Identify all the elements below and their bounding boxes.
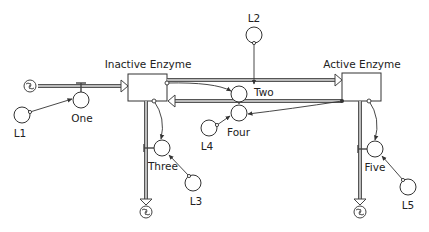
stock-inactive-enzyme-label: Inactive Enzyme bbox=[105, 58, 192, 70]
flow-arrowhead-icon bbox=[354, 199, 366, 205]
converter-l5-label: L5 bbox=[402, 199, 415, 211]
flow-one-pipe[interactable] bbox=[38, 80, 128, 92]
converter-l3-label: L3 bbox=[190, 195, 203, 207]
converter-l4[interactable] bbox=[201, 120, 217, 136]
link-inactive-to-two bbox=[167, 83, 231, 91]
flow-rate-one[interactable] bbox=[73, 92, 89, 108]
converter-l1-label: L1 bbox=[14, 127, 27, 139]
flow-rate-three[interactable] bbox=[154, 140, 170, 156]
sink-cloud-three-icon bbox=[140, 206, 152, 218]
link-l4-to-four bbox=[217, 116, 230, 125]
link-inactive-to-three bbox=[154, 101, 162, 139]
link-active-to-five bbox=[369, 101, 377, 140]
stock-flow-diagram: Inactive Enzyme Active Enzyme Two Four L… bbox=[0, 0, 429, 232]
stock-inactive-enzyme[interactable] bbox=[128, 74, 167, 101]
converter-l2-label: L2 bbox=[248, 12, 261, 24]
link-l1-to-one bbox=[30, 99, 72, 112]
stock-active-enzyme-label: Active Enzyme bbox=[323, 58, 401, 70]
flow-arrowhead-icon bbox=[335, 74, 342, 86]
flow-rate-one-label: One bbox=[71, 112, 92, 124]
sink-cloud-five-icon bbox=[354, 206, 366, 218]
flow-rate-three-label: Three bbox=[147, 160, 178, 172]
flow-arrowhead-icon bbox=[140, 199, 152, 205]
converter-l3[interactable] bbox=[185, 175, 201, 191]
flow-five-pipe[interactable] bbox=[354, 101, 366, 205]
flow-two-pipe[interactable] bbox=[167, 74, 342, 86]
flow-rate-five-label: Five bbox=[365, 161, 386, 173]
flow-rate-two[interactable] bbox=[231, 86, 247, 102]
flow-rate-four[interactable] bbox=[231, 105, 247, 121]
flow-arrowhead-icon bbox=[121, 80, 128, 92]
flow-rate-two-label: Two bbox=[253, 86, 274, 98]
flow-rate-four-label: Four bbox=[227, 126, 251, 138]
flow-arrowhead-icon bbox=[168, 95, 175, 107]
converter-l2[interactable] bbox=[246, 27, 262, 43]
converter-l1[interactable] bbox=[14, 107, 30, 123]
stock-active-enzyme[interactable] bbox=[342, 73, 381, 101]
flow-three-pipe[interactable] bbox=[140, 101, 152, 205]
flow-rate-five[interactable] bbox=[367, 141, 383, 157]
converter-l4-label: L4 bbox=[201, 140, 214, 152]
source-cloud-icon bbox=[24, 80, 36, 92]
